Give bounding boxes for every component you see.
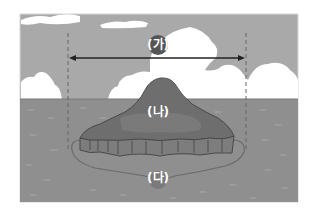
- label-da: (다): [147, 172, 169, 184]
- label-na: (나): [147, 106, 169, 118]
- label-ga: (가): [147, 39, 169, 51]
- island-diagram: (가) (나) (다): [0, 0, 312, 213]
